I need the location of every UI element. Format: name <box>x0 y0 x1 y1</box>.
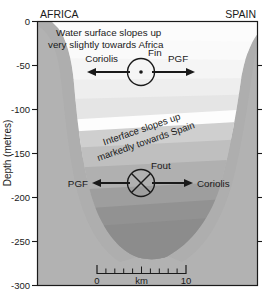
pgf-label-upper: PGF <box>168 53 188 64</box>
y-axis-title: Depth (metres) <box>2 120 13 187</box>
y-tick-label-0: 0 <box>25 16 30 27</box>
y-tick-label-50: -50 <box>16 60 30 71</box>
fin-label: Fin <box>148 47 162 58</box>
pgf-label-lower: PGF <box>68 178 88 189</box>
label-africa: AFRICA <box>40 8 79 20</box>
y-tick-label-200: -200 <box>11 192 30 203</box>
y-tick-label-100: -100 <box>11 104 30 115</box>
y-tick-label-150: -150 <box>11 148 30 159</box>
surface-note-line-2: very slightly towards Africa <box>48 39 164 50</box>
scale-bar-start-label: 0 <box>94 275 99 286</box>
coriolis-label-lower: Coriolis <box>197 178 230 189</box>
fin-marker-dot <box>139 70 143 74</box>
plot-interior <box>30 18 268 290</box>
figure-root: 0 -50 -100 -150 -200 -250 -300 Depth (me… <box>0 0 268 299</box>
label-spain: SPAIN <box>225 8 256 20</box>
coriolis-label-upper: Coriolis <box>85 53 118 64</box>
scale-bar-end-label: 10 <box>181 275 192 286</box>
surface-note-line-1: Water surface slopes up <box>56 27 162 38</box>
y-tick-label-300: -300 <box>11 280 30 291</box>
cross-section-svg: 0 -50 -100 -150 -200 -250 -300 Depth (me… <box>0 0 268 299</box>
y-tick-label-250: -250 <box>11 236 30 247</box>
fout-label: Fout <box>151 160 171 171</box>
scale-bar-unit-label: km <box>135 275 148 286</box>
